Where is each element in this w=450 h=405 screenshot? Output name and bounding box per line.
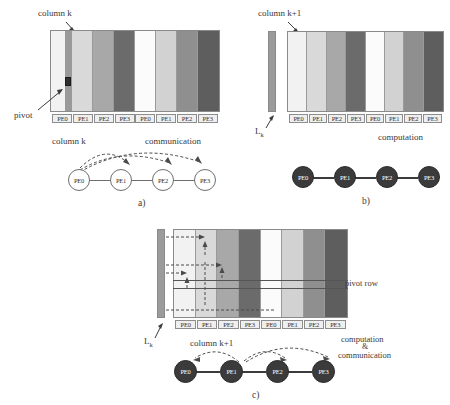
graph-edge (172, 180, 194, 181)
panel-b-caption: b) (362, 196, 370, 206)
graph-node-pe3[interactable]: PE3 (194, 169, 216, 191)
panel-a-process-graph: PE0 PE1 PE2 PE3 (0, 0, 230, 210)
panel-c: Lk pivot row PE0 PE1 PE2 (100, 210, 450, 405)
graph-edge (312, 177, 334, 179)
graph-edge (88, 180, 110, 181)
graph-node-pe3[interactable]: PE3 (418, 166, 440, 188)
panel-a: column k pivot PE0 PE1 PE2 PE3 PE0 PE1 P… (0, 0, 230, 210)
graph-edge (396, 177, 418, 179)
graph-edge (288, 371, 312, 373)
graph-node-pe0[interactable]: PE0 (68, 169, 90, 191)
panel-c-process-graph: PE0 PE1 PE2 PE3 (100, 210, 450, 405)
graph-node-pe2[interactable]: PE2 (266, 360, 289, 383)
graph-node-pe2[interactable]: PE2 (152, 169, 174, 191)
panel-b: column k+1 Lk PE0 PE1 PE2 PE3 PE0 PE1 PE… (230, 0, 450, 210)
panel-a-caption: a) (138, 198, 145, 208)
graph-node-pe1[interactable]: PE1 (110, 169, 132, 191)
panel-c-caption: c) (252, 390, 259, 400)
panel-b-process-graph: PE0 PE1 PE2 PE3 (230, 0, 450, 210)
graph-node-pe2[interactable]: PE2 (376, 166, 398, 188)
graph-node-pe1[interactable]: PE1 (220, 360, 243, 383)
graph-node-pe0[interactable]: PE0 (174, 360, 197, 383)
graph-edge (130, 180, 152, 181)
graph-node-pe1[interactable]: PE1 (334, 166, 356, 188)
graph-edge (354, 177, 376, 179)
graph-edge (242, 371, 266, 373)
graph-edge (196, 371, 220, 373)
graph-node-pe3[interactable]: PE3 (312, 360, 335, 383)
graph-node-pe0[interactable]: PE0 (292, 166, 314, 188)
